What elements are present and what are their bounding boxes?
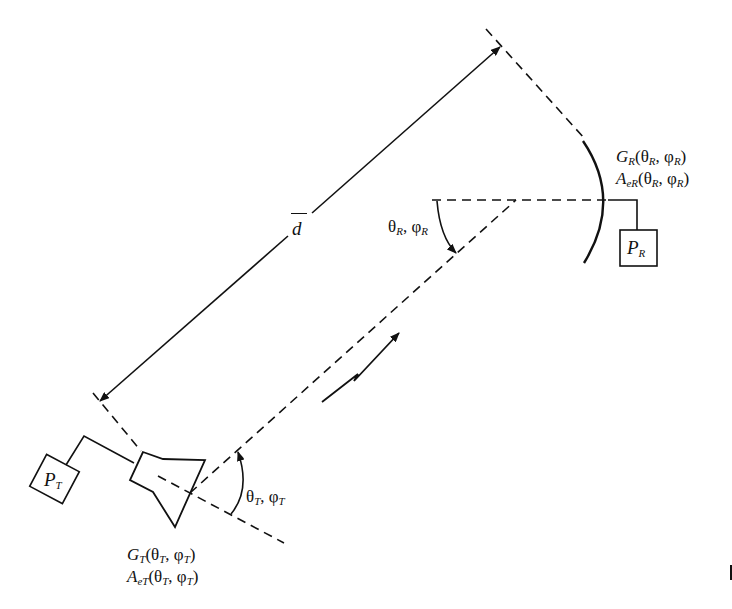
power-subscript: R (639, 247, 646, 259)
transmitter-angle-label: θT, φT (246, 488, 285, 507)
transmitter-angle-arc (231, 452, 243, 514)
transmitter-reference-dashed-line (93, 393, 141, 451)
gain-symbol: G (127, 545, 139, 564)
receiver-angle-label: θR, φR (388, 218, 428, 237)
aperture-subscript: eT (137, 575, 148, 587)
receiver-gain-label: GR(θR, φR) (616, 148, 686, 167)
transmitter-aperture-label: AeT(θT, φT) (127, 568, 198, 587)
power-symbol: P (44, 469, 56, 490)
aperture-subscript: eR (626, 177, 638, 189)
power-subscript: T (56, 479, 62, 491)
vector-bar (291, 213, 307, 214)
distance-label: d (292, 219, 302, 238)
transmitter-feed-line (66, 436, 134, 465)
transmitter-gain-label: GT(θT, φT) (127, 546, 195, 565)
friis-transmission-diagram: d GR(θR, φR) AeR(θR, φR) PR θR, φR PT θT… (0, 0, 732, 609)
aperture-symbol: A (616, 169, 626, 188)
receiver-dish (583, 141, 603, 263)
aperture-symbol: A (127, 567, 137, 586)
distance-symbol: d (292, 218, 302, 239)
transmitter-power-label: PT (44, 470, 62, 491)
receiver-reference-dashed-line (486, 29, 584, 138)
receiver-feed-line (608, 200, 637, 230)
receiver-power-label: PR (627, 238, 645, 259)
power-symbol: P (627, 237, 639, 258)
diagram-graphics (0, 0, 732, 609)
wave-propagation-arrow (322, 333, 399, 402)
receiver-aperture-label: AeR(θR, φR) (616, 170, 689, 189)
gain-subscript: R (628, 155, 635, 167)
line-of-sight-dashed (190, 200, 516, 493)
gain-symbol: G (616, 147, 628, 166)
receiver-angle-arc (437, 201, 456, 253)
